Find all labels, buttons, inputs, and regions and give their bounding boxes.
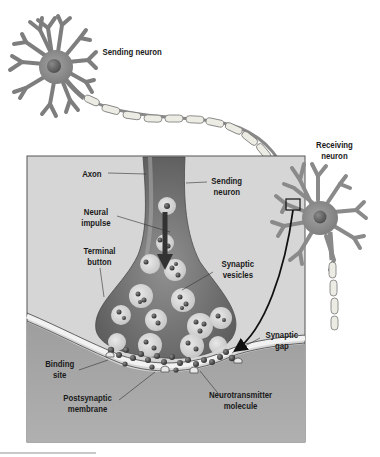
nucleus-icon — [314, 211, 327, 224]
label-receiving-neuron: Receiving neuron — [316, 139, 353, 161]
label-sending-neuron-inset: Sending neuron — [211, 175, 242, 197]
diagram-canvas — [0, 0, 380, 457]
label-neural-impulse: Neural impulse — [81, 206, 110, 228]
label-synaptic-gap: Synaptic gap — [266, 329, 298, 351]
label-terminal-button: Terminal button — [84, 245, 116, 267]
label-binding-site: Binding site — [45, 358, 74, 380]
label-sending-neuron: Sending neuron — [103, 46, 162, 57]
sending-neuron — [10, 16, 96, 116]
label-neurotransmitter-molecule: Neurotransmitter molecule — [209, 389, 272, 411]
nucleus-icon — [47, 59, 61, 73]
synapse-diagram: Sending neuron Receiving neuron Axon Sen… — [0, 0, 380, 457]
label-synaptic-vesicles: Synaptic vesicles — [222, 258, 254, 280]
label-axon: Axon — [82, 168, 101, 179]
footer-rule — [0, 452, 96, 454]
label-postsynaptic-membrane: Postsynaptic membrane — [63, 392, 111, 414]
